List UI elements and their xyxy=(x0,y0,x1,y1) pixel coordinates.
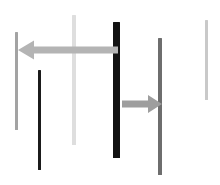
diagram-canvas xyxy=(0,0,220,185)
bar-1-light-gray-left xyxy=(15,32,18,130)
bar-2-dark-lower-left xyxy=(38,70,41,170)
bar-5-medium-gray-right xyxy=(158,38,162,175)
bar-4-black-thick-center xyxy=(113,22,120,158)
arrow-left-icon xyxy=(18,41,118,60)
arrow-right-icon xyxy=(122,95,162,113)
arrow-layer xyxy=(0,0,220,185)
bar-6-light-gray-far-right xyxy=(205,20,208,100)
bar-3-pale-gray-center-left xyxy=(72,15,76,145)
